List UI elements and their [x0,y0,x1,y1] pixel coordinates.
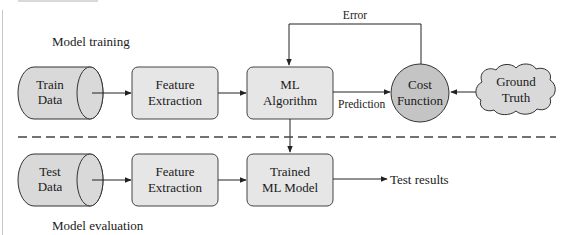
ml-pipeline-diagram: Model training Model evaluation Train Da… [0,0,564,235]
trained-model-label-1: Trained [270,164,310,179]
feature-extraction-test-label-2: Extraction [148,180,203,195]
ground-truth-label-1: Ground [496,74,536,89]
cost-function-circle: Cost Function [391,64,449,122]
edge-error-feedback [289,24,421,65]
section-label-evaluation: Model evaluation [52,218,144,233]
section-label-training: Model training [52,34,130,49]
ml-algorithm-label-2: Algorithm [263,93,317,108]
test-results-label: Test results [390,172,449,187]
feature-extraction-test-box: Feature Extraction [132,154,218,206]
ground-truth-label-2: Truth [502,90,531,105]
cost-function-label-1: Cost [408,77,432,92]
train-data-label-1: Train [36,77,64,92]
feature-extraction-train-box: Feature Extraction [132,67,218,119]
edge-label-prediction: Prediction [338,98,386,110]
ml-algorithm-box: ML Algorithm [247,67,333,119]
test-data-label-2: Data [38,179,63,194]
cost-function-label-2: Function [397,93,444,108]
feature-extraction-train-label-2: Extraction [148,93,203,108]
train-data-label-2: Data [38,92,63,107]
test-data-cylinder: Test Data [18,154,103,206]
trained-model-label-2: ML Model [262,180,319,195]
edge-label-error: Error [343,9,367,21]
page-margin-rule [2,10,3,235]
test-data-label-1: Test [39,164,61,179]
trained-model-box: Trained ML Model [247,154,333,206]
train-data-cylinder: Train Data [18,67,103,119]
feature-extraction-train-label-1: Feature [156,77,195,92]
clipped-heading-remnant [18,0,98,2]
feature-extraction-test-label-1: Feature [156,164,195,179]
ground-truth-cloud: Ground Truth [476,64,555,115]
ml-algorithm-label-1: ML [280,77,300,92]
diagram-canvas: Model training Model evaluation Train Da… [0,0,564,235]
